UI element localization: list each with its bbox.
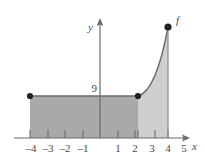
point-left-endpoint — [27, 93, 33, 99]
region-rectangle — [30, 96, 138, 138]
x-tick-label-5: 5 — [181, 143, 187, 154]
point-corner — [135, 93, 141, 99]
x-tick-label--1: –1 — [78, 143, 89, 154]
function-area-chart: –4 –3 –2 –1 1 2 3 4 5 9 y x f — [0, 0, 205, 161]
x-tick-label--4: –4 — [26, 143, 37, 154]
x-tick-label-2: 2 — [132, 143, 138, 154]
x-tick-label-4: 4 — [165, 143, 171, 154]
y-axis-label: y — [88, 22, 93, 33]
x-tick-label--2: –2 — [60, 143, 71, 154]
plot-canvas — [0, 0, 205, 161]
region-under-curve — [138, 27, 168, 138]
x-tick-label--3: –3 — [43, 143, 54, 154]
curve-label-f: f — [176, 15, 179, 26]
x-tick-label-3: 3 — [149, 143, 155, 154]
x-tick-label-1: 1 — [115, 143, 121, 154]
x-axis-label: x — [192, 141, 197, 152]
point-right-endpoint — [164, 23, 171, 30]
y-value-label-9: 9 — [92, 83, 98, 94]
